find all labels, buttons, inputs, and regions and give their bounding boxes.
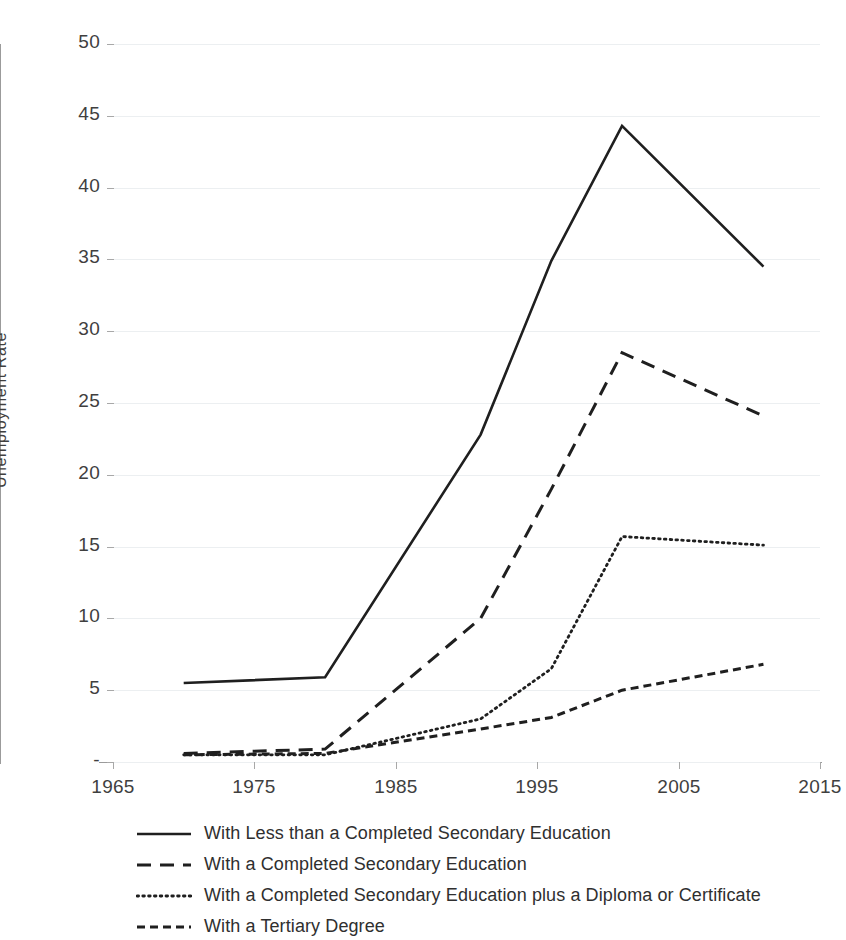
y-tick-label: 10 (40, 605, 100, 627)
gridline (113, 762, 820, 763)
legend-item-label: With a Completed Secondary Education plu… (204, 885, 761, 906)
y-tick-mark (107, 618, 114, 619)
y-tick-mark (107, 331, 114, 332)
x-tick-mark (254, 762, 255, 769)
y-tick-label: 15 (40, 534, 100, 556)
y-tick-mark (107, 547, 114, 548)
x-tick-label: 1965 (68, 776, 158, 798)
x-tick-mark (396, 762, 397, 769)
gridline (113, 547, 820, 548)
x-tick-label: 1975 (209, 776, 299, 798)
legend-item-1[interactable]: With a Completed Secondary Education (136, 849, 836, 880)
gridline (113, 475, 820, 476)
legend-line-swatch-icon (136, 888, 192, 904)
gridline (113, 259, 820, 260)
y-tick-mark (107, 116, 114, 117)
legend-item-3[interactable]: With a Tertiary Degree (136, 911, 836, 940)
legend-item-0[interactable]: With Less than a Completed Secondary Edu… (136, 818, 836, 849)
series-line-2 (184, 537, 764, 755)
x-tick-label: 2015 (775, 776, 846, 798)
legend-line-swatch-icon (136, 857, 192, 873)
x-tick-mark (820, 762, 821, 769)
gridline (113, 618, 820, 619)
series-line-3 (184, 664, 764, 754)
y-tick-label: 20 (40, 462, 100, 484)
series-line-0 (184, 126, 764, 683)
gridline (113, 116, 820, 117)
gridline (113, 188, 820, 189)
y-tick-mark (107, 475, 114, 476)
y-tick-mark (107, 259, 114, 260)
y-tick-mark (107, 403, 114, 404)
gridline (113, 690, 820, 691)
y-tick-mark (107, 188, 114, 189)
y-tick-label: 35 (40, 246, 100, 268)
y-tick-label: 45 (40, 103, 100, 125)
legend-line-swatch-icon (136, 919, 192, 935)
y-tick-label: 5 (40, 677, 100, 699)
legend-item-2[interactable]: With a Completed Secondary Education plu… (136, 880, 836, 911)
legend-item-label: With Less than a Completed Secondary Edu… (204, 823, 611, 844)
gridline (113, 44, 820, 45)
x-tick-label: 1985 (351, 776, 441, 798)
gridline (113, 331, 820, 332)
x-tick-mark (679, 762, 680, 769)
y-tick-label: 30 (40, 318, 100, 340)
legend-item-label: With a Completed Secondary Education (204, 854, 527, 875)
y-axis-tick-labels: -5101520253035404550 (20, 0, 100, 800)
y-tick-label: - (40, 749, 100, 771)
series-line-1 (184, 353, 764, 754)
gridline (113, 403, 820, 404)
legend-item-label: With a Tertiary Degree (204, 916, 385, 937)
x-tick-mark (113, 762, 114, 769)
y-tick-label: 40 (40, 175, 100, 197)
chart-legend: With Less than a Completed Secondary Edu… (136, 818, 836, 940)
y-tick-label: 25 (40, 390, 100, 412)
y-tick-mark (107, 44, 114, 45)
y-axis-title: Unemployment Rate (0, 290, 10, 530)
y-tick-label: 50 (40, 31, 100, 53)
x-tick-mark (537, 762, 538, 769)
x-tick-label: 1995 (492, 776, 582, 798)
x-tick-label: 2005 (634, 776, 724, 798)
legend-line-swatch-icon (136, 826, 192, 842)
y-tick-mark (107, 690, 114, 691)
